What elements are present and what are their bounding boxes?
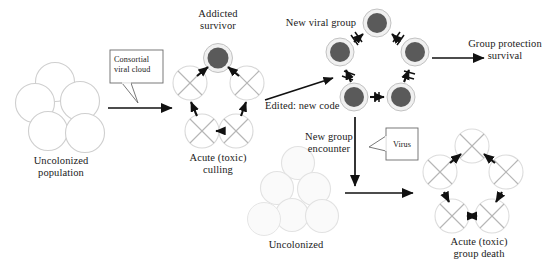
dark-cell xyxy=(326,38,354,66)
dark-cell xyxy=(401,38,429,66)
diagram-figure: Uncolonized population Consortial viral … xyxy=(0,0,559,265)
label-consortial-viral-cloud: Consortial viral cloud xyxy=(114,55,162,74)
dark-cell xyxy=(387,83,415,111)
editing-arrow xyxy=(265,78,333,100)
label-acute-toxic-culling: Acute (toxic) culling xyxy=(170,152,266,176)
crossed-cell xyxy=(435,199,469,233)
blocked-arrow xyxy=(342,70,355,82)
acute-toxic-group-death-pentagon xyxy=(423,129,523,233)
crossed-cell xyxy=(219,114,253,148)
crossed-cell xyxy=(475,199,509,233)
encounter-arrow-down xyxy=(355,117,418,186)
label-group-protection-survival: Group protection survival xyxy=(452,38,558,62)
crossed-cell xyxy=(489,155,523,189)
blocked-arrow xyxy=(403,70,415,82)
label-addicted-survivor: Addicted survivor xyxy=(172,8,264,32)
crossed-cell xyxy=(185,114,219,148)
label-virus: Virus xyxy=(388,140,416,150)
label-new-group-encounter: New group encounter xyxy=(303,131,355,155)
label-acute-toxic-group-death: Acute (toxic) group death xyxy=(424,236,534,260)
blocked-arrow xyxy=(392,32,404,45)
crossed-cell xyxy=(230,66,264,100)
uncolonized-population-cluster xyxy=(16,63,105,153)
label-uncolonized-population: Uncolonized population xyxy=(11,155,111,179)
label-uncolonized: Uncolonized xyxy=(248,239,344,251)
label-edited-new-code: Edited: new code xyxy=(265,100,375,112)
crossed-cell xyxy=(455,129,489,163)
label-new-viral-group: New viral group xyxy=(272,17,370,29)
blocked-arrow xyxy=(351,32,363,45)
acute-toxic-culling-pentagon xyxy=(173,44,264,149)
